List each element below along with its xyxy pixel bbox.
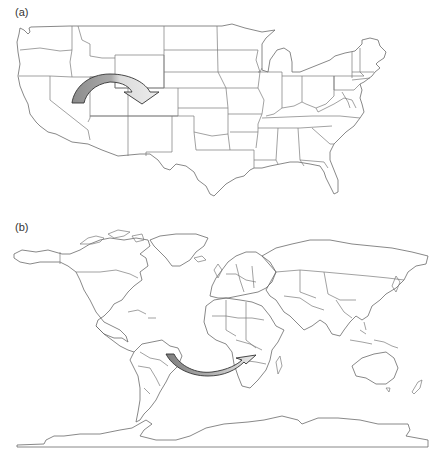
north-america-outline — [14, 238, 150, 342]
europe-outline — [210, 252, 276, 298]
migration-arrow-b — [166, 354, 256, 376]
antarctica-outline — [17, 416, 428, 447]
south-america-outline — [130, 340, 182, 422]
asia-outline — [262, 240, 428, 336]
figure-canvas — [0, 0, 441, 461]
world-map — [14, 230, 428, 447]
greenland-outline — [150, 234, 208, 266]
migration-arrow-a — [72, 74, 159, 104]
us-map — [17, 24, 386, 196]
australia-outline — [352, 352, 398, 384]
